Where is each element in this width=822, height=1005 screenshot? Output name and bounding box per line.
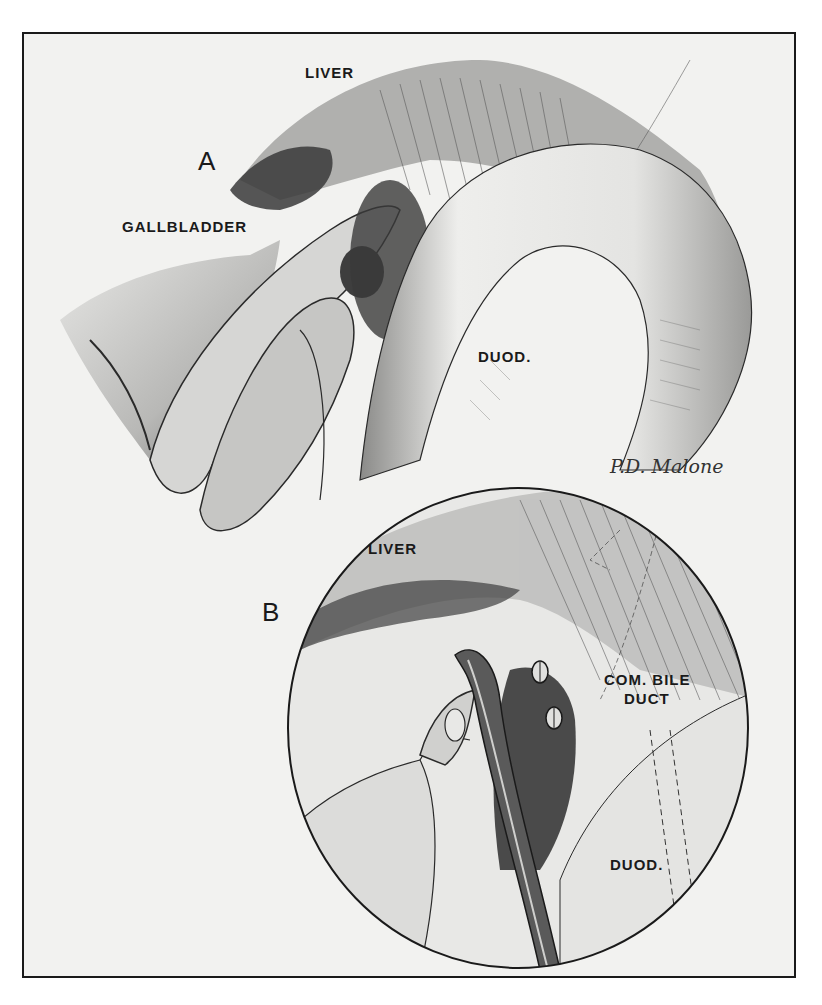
label-common-bile-duct-1: COM. BILE <box>604 671 691 688</box>
label-panel-b: B <box>262 597 280 628</box>
duodenum-shape-a <box>360 144 752 480</box>
artist-signature: P.D. Malone <box>610 455 723 477</box>
panel-b-drawing <box>288 488 760 980</box>
label-duodenum-b: DUOD. <box>610 856 663 873</box>
label-liver-b: LIVER <box>368 540 417 557</box>
label-common-bile-duct-2: DUCT <box>624 690 670 707</box>
label-gallbladder: GALLBLADDER <box>122 218 247 235</box>
label-panel-a: A <box>198 146 216 177</box>
label-liver-a: LIVER <box>305 64 354 81</box>
surgical-illustration <box>0 0 822 1005</box>
label-duodenum-a: DUOD. <box>478 348 531 365</box>
